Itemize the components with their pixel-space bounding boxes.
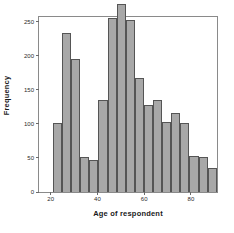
- histogram-bar: [208, 168, 217, 193]
- histogram-bar: [80, 157, 89, 192]
- y-tick-label: 150: [24, 87, 34, 93]
- histogram-bar: [153, 100, 162, 192]
- bar-series: [39, 17, 217, 192]
- y-tick-mark: [36, 157, 39, 158]
- y-tick-mark: [36, 123, 39, 124]
- y-axis-title-label: Frequency: [3, 75, 12, 115]
- y-axis-title: Frequency: [0, 0, 14, 190]
- x-tick-label: 20: [47, 196, 54, 202]
- x-tick-mark: [97, 192, 98, 195]
- y-tick-label: 50: [27, 155, 34, 161]
- x-axis-title: Age of respondent: [38, 209, 218, 218]
- y-tick-label: 0: [31, 189, 34, 195]
- histogram-bar: [171, 113, 180, 192]
- histogram-bar: [180, 123, 189, 192]
- y-tick-label: 100: [24, 121, 34, 127]
- y-tick-mark: [36, 89, 39, 90]
- y-tick-mark: [36, 192, 39, 193]
- y-tick-mark: [36, 21, 39, 22]
- histogram-bar: [117, 4, 126, 192]
- histogram-figure: Frequency 050100150200250 20406080 Age o…: [0, 0, 234, 233]
- histogram-bar: [199, 157, 208, 192]
- plot-area: 050100150200250 20406080: [38, 16, 218, 193]
- x-tick-mark: [50, 192, 51, 195]
- histogram-bar: [71, 59, 80, 192]
- histogram-bar: [135, 78, 144, 192]
- y-tick-mark: [36, 55, 39, 56]
- histogram-bar: [89, 160, 98, 192]
- x-tick-label: 60: [141, 196, 148, 202]
- x-tick-mark: [190, 192, 191, 195]
- histogram-bar: [62, 33, 71, 192]
- histogram-bar: [53, 123, 62, 192]
- y-tick-label: 200: [24, 53, 34, 59]
- histogram-bar: [108, 18, 117, 192]
- histogram-bar: [189, 156, 198, 192]
- x-tick-label: 40: [94, 196, 101, 202]
- histogram-bar: [98, 100, 107, 192]
- x-tick-mark: [144, 192, 145, 195]
- histogram-bar: [144, 105, 153, 192]
- y-tick-label: 250: [24, 19, 34, 25]
- histogram-bar: [162, 122, 171, 192]
- histogram-bar: [126, 20, 135, 192]
- x-tick-label: 80: [188, 196, 195, 202]
